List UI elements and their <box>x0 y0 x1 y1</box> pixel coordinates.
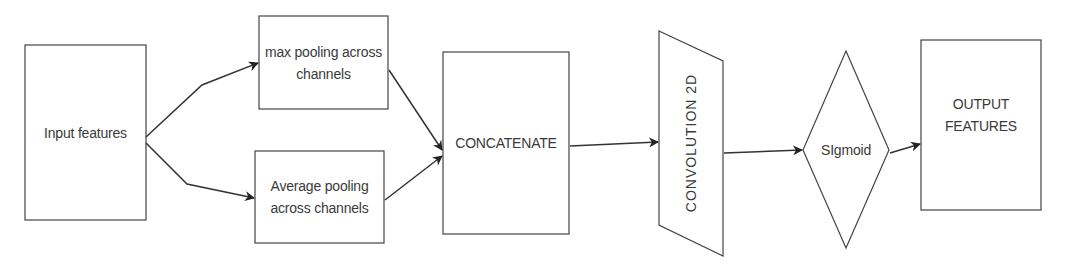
output-features-label: OUTPUT FEATURES <box>935 80 1027 150</box>
concatenate-label: CONCATENATE <box>443 52 569 234</box>
edge-input-to-average-pooling <box>146 143 254 198</box>
edge-input-to-max-pooling <box>146 63 258 137</box>
edge-convolution-to-sigmoid <box>724 150 802 153</box>
convolution-2d-label: CONVOLUTION 2D <box>683 74 699 212</box>
max-pooling-label: max pooling across channels <box>263 16 384 109</box>
edge-max-pooling-to-concatenate <box>389 70 442 150</box>
average-pooling-label: Average pooling across channels <box>262 151 377 243</box>
edge-average-pooling-to-concatenate <box>385 156 442 200</box>
edge-concatenate-to-convolution <box>570 142 658 146</box>
edge-sigmoid-to-output <box>890 144 920 153</box>
sigmoid-label: SIgmoid <box>803 100 889 200</box>
input-features-label: Input features <box>25 45 146 220</box>
